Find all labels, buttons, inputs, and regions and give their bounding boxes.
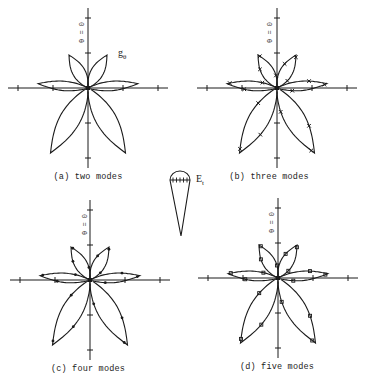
lobe-panel-a <box>51 88 89 153</box>
lobe-panel-a <box>88 55 107 88</box>
lobe-panel-c <box>90 247 109 280</box>
marker-dot-icon <box>121 272 124 275</box>
marker-dot-icon <box>72 260 75 263</box>
marker-dot-icon <box>92 302 95 305</box>
lobe-panel-a <box>88 88 126 153</box>
caption-panel-a: (a) two modes <box>54 172 123 182</box>
lobe-panel-d <box>278 278 316 343</box>
lobe-panel-b <box>240 88 278 153</box>
marker-x-icon <box>283 62 287 66</box>
lobe-panel-d <box>278 271 328 281</box>
lobe-panel-d <box>228 271 278 281</box>
origin-marker <box>86 86 90 90</box>
lobe-panel-a <box>38 81 88 91</box>
marker-dot-icon <box>72 325 75 328</box>
marker-dot-icon <box>74 273 77 276</box>
lobe-panel-c <box>53 280 91 345</box>
figure: (a) two modes (b) three modes (c) four m… <box>0 0 366 382</box>
marker-x-icon <box>309 149 313 153</box>
marker-dot-icon <box>99 271 102 274</box>
lobe-panel-b <box>277 55 296 88</box>
marker-dot-icon <box>136 275 139 278</box>
lobe-panel-a <box>69 55 88 88</box>
origin-marker <box>275 86 279 90</box>
lobe-panel-b <box>227 81 277 91</box>
marker-x-icon <box>286 79 290 83</box>
caption-panel-b: (b) three modes <box>229 172 309 182</box>
cone-label-subscript: t <box>202 179 204 187</box>
axis-label-panel-c: θ = 0 <box>81 214 89 235</box>
caption-panel-c: (c) four modes <box>51 364 125 374</box>
marker-dot-icon <box>121 316 124 319</box>
cone-label-e-t: Et <box>196 173 204 187</box>
marker-dot-icon <box>56 280 59 283</box>
marker-dot-icon <box>108 248 111 251</box>
lobe-panel-c <box>40 273 90 283</box>
axis-label-panel-b: θ = 0 <box>266 22 274 43</box>
marker-dot-icon <box>88 266 91 269</box>
axis-label-panel-a: θ = 0 <box>78 22 86 43</box>
marker-dot-icon <box>52 340 55 343</box>
marker-dot-icon <box>96 254 99 257</box>
marker-dot-icon <box>70 294 73 297</box>
lobe-panel-b <box>277 88 315 153</box>
marker-dot-icon <box>71 247 74 250</box>
lobe-label-subscript: θ <box>123 53 126 61</box>
marker-dot-icon <box>123 341 126 344</box>
radiation-pattern-plots <box>0 0 366 382</box>
origin-marker <box>276 276 280 280</box>
lobe-panel-b <box>277 81 327 91</box>
lobe-panel-c <box>90 280 128 345</box>
marker-dot-icon <box>41 274 44 277</box>
lobe-panel-a <box>88 81 138 91</box>
marker-x-icon <box>256 101 260 105</box>
marker-dot-icon <box>104 281 107 284</box>
marker-x-icon <box>259 133 263 137</box>
lobe-panel-d <box>241 278 279 343</box>
lobe-panel-d <box>278 245 297 278</box>
origin-marker <box>88 278 92 282</box>
lobe-panel-b <box>258 55 277 88</box>
lobe-label-g-theta: gθ <box>118 47 126 61</box>
lobe-panel-c <box>71 247 90 280</box>
lobe-panel-c <box>90 273 140 283</box>
axis-label-panel-d: θ = 0 <box>268 212 276 233</box>
caption-panel-d: (d) five modes <box>240 362 314 372</box>
